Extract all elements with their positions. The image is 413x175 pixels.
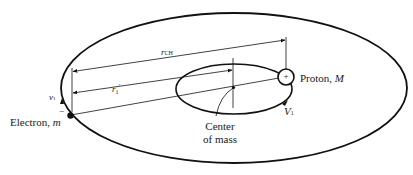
center-of-mass-pointer <box>216 88 233 116</box>
proton-label: Proton, M <box>300 73 344 84</box>
r1-prime-superscript: ′ <box>119 82 121 90</box>
v1-small-label: v1 <box>49 93 56 102</box>
r1-prime-label: r1′ <box>112 83 120 95</box>
electron-dot <box>67 112 73 118</box>
r-ch-dimension-arrow <box>73 40 285 72</box>
v1-small-subscript: 1 <box>53 96 56 101</box>
orbit-diagram-svg <box>0 0 413 175</box>
v1-large-label: V1 <box>284 106 294 117</box>
proton-label-text: Proton, <box>300 72 335 84</box>
v1-large-subscript: 1 <box>291 110 294 116</box>
electron-proton-axis <box>71 78 279 115</box>
center-of-mass-line1: Center <box>192 121 248 132</box>
electron-charge-label: − <box>59 107 64 116</box>
center-of-mass-line2: of mass <box>192 134 248 145</box>
r1-prime-dimension-arrow <box>73 70 232 93</box>
center-of-mass-label: Center of mass <box>192 121 248 145</box>
proton-plus-symbol: + <box>282 72 290 81</box>
electron-label: Electron, m <box>10 117 61 128</box>
electron-label-text: Electron, <box>10 116 53 128</box>
r-ch-label: rCH <box>161 48 173 57</box>
r-ch-subscript: CH <box>165 50 173 56</box>
electron-mass-symbol: m <box>53 116 61 128</box>
v1-large-symbol: V <box>284 105 291 117</box>
proton-mass-symbol: M <box>335 72 344 84</box>
